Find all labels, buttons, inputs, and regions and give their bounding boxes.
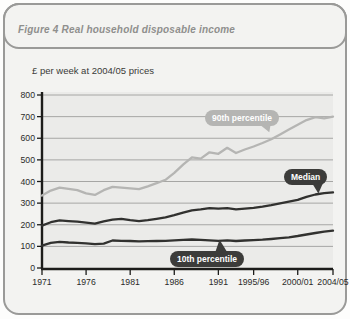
series-label-90th-percentile: 90th percentile bbox=[205, 110, 279, 126]
series-label-90th-percentile-text: 90th percentile bbox=[212, 113, 272, 123]
svg-text:1981: 1981 bbox=[121, 277, 140, 287]
svg-text:400: 400 bbox=[21, 177, 36, 187]
svg-text:300: 300 bbox=[21, 198, 36, 208]
figure-card: 0100200300400500600700800197119761981198… bbox=[3, 3, 347, 315]
series-label-median: Median bbox=[284, 169, 327, 185]
svg-text:1976: 1976 bbox=[76, 277, 95, 287]
label-tail-icon bbox=[215, 239, 228, 252]
svg-text:700: 700 bbox=[21, 112, 36, 122]
svg-text:200: 200 bbox=[21, 220, 36, 230]
chart-canvas: 0100200300400500600700800197119761981198… bbox=[5, 5, 349, 315]
svg-text:1991: 1991 bbox=[209, 277, 228, 287]
series-label-10th-percentile-text: 10th percentile bbox=[177, 254, 237, 264]
svg-text:600: 600 bbox=[21, 133, 36, 143]
figure-title: Figure 4 Real household disposable incom… bbox=[18, 24, 235, 35]
svg-text:1995/96: 1995/96 bbox=[238, 277, 270, 287]
series-label-median-text: Median bbox=[291, 172, 320, 182]
svg-text:500: 500 bbox=[21, 155, 36, 165]
y-axis-unit-label: £ per week at 2004/05 prices bbox=[32, 65, 154, 76]
svg-text:0: 0 bbox=[30, 263, 35, 273]
series-label-10th-percentile: 10th percentile bbox=[170, 251, 244, 267]
svg-text:1986: 1986 bbox=[165, 277, 184, 287]
svg-text:1971: 1971 bbox=[32, 277, 51, 287]
figure-header: Figure 4 Real household disposable incom… bbox=[3, 3, 347, 49]
svg-text:800: 800 bbox=[21, 90, 36, 100]
svg-text:100: 100 bbox=[21, 241, 36, 251]
svg-text:2000/01: 2000/01 bbox=[282, 277, 314, 287]
svg-text:2004/05: 2004/05 bbox=[317, 277, 349, 287]
